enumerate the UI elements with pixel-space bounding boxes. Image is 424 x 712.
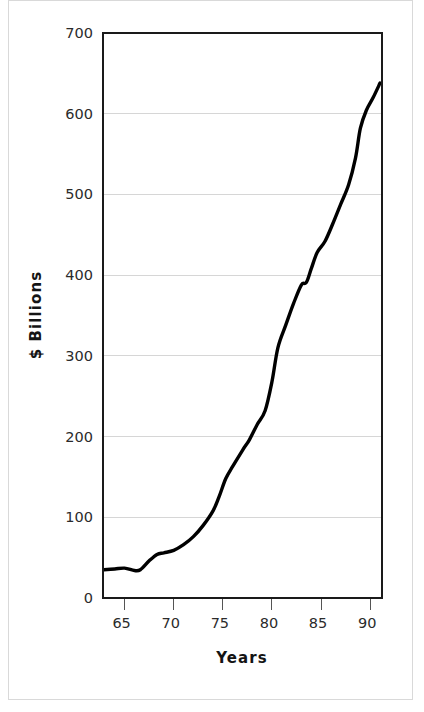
x-axis-title: Years (215, 649, 268, 667)
y-axis-tick-label: 300 (65, 348, 93, 364)
x-axis-tick-label: 65 (112, 615, 130, 631)
y-axis-tick-label: 500 (65, 186, 93, 202)
chart-canvas: 0100200300400500600700 657075808590 $ Bi… (0, 0, 424, 712)
y-axis-title: $ Billions (27, 271, 45, 360)
x-axis-tick-label: 70 (162, 615, 180, 631)
y-axis-tick-label: 100 (65, 509, 93, 525)
y-axis-tick-label: 700 (65, 25, 93, 41)
y-axis-tick-label: 600 (65, 106, 93, 122)
x-axis-ticks-group: 657075808590 (112, 598, 376, 631)
y-axis-tick-label: 400 (65, 267, 93, 283)
x-axis-tick-label: 80 (260, 615, 278, 631)
y-axis-tick-label: 0 (84, 590, 93, 606)
chart-page: 0100200300400500600700 657075808590 $ Bi… (0, 0, 424, 712)
x-axis-tick-label: 85 (309, 615, 327, 631)
plot-background (103, 33, 382, 598)
y-axis-tick-labels: 0100200300400500600700 (65, 25, 93, 606)
x-axis-tick-label: 90 (358, 615, 376, 631)
y-axis-tick-label: 200 (65, 429, 93, 445)
x-axis-tick-label: 75 (211, 615, 229, 631)
line-chart-figure: 0100200300400500600700 657075808590 $ Bi… (0, 0, 424, 712)
